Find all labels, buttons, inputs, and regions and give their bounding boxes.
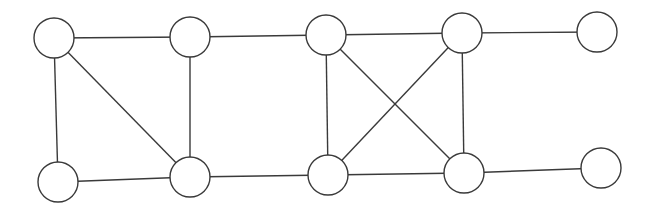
node-n3 (306, 15, 346, 55)
edge-n4-n9 (462, 33, 464, 173)
node-n4 (442, 13, 482, 53)
edge-n1-n6 (54, 38, 58, 182)
node-n6 (38, 162, 78, 202)
node-n5 (577, 12, 617, 52)
node-n1 (34, 18, 74, 58)
node-n7 (170, 157, 210, 197)
node-n8 (308, 155, 348, 195)
node-n2 (170, 17, 210, 57)
edge-n7-n8 (190, 175, 328, 177)
edge-n3-n8 (326, 35, 328, 175)
edge-n4-n8 (328, 33, 462, 175)
edge-n1-n7 (54, 38, 190, 177)
node-n9 (444, 153, 484, 193)
node-n10 (581, 148, 621, 188)
graph-diagram (0, 0, 653, 212)
